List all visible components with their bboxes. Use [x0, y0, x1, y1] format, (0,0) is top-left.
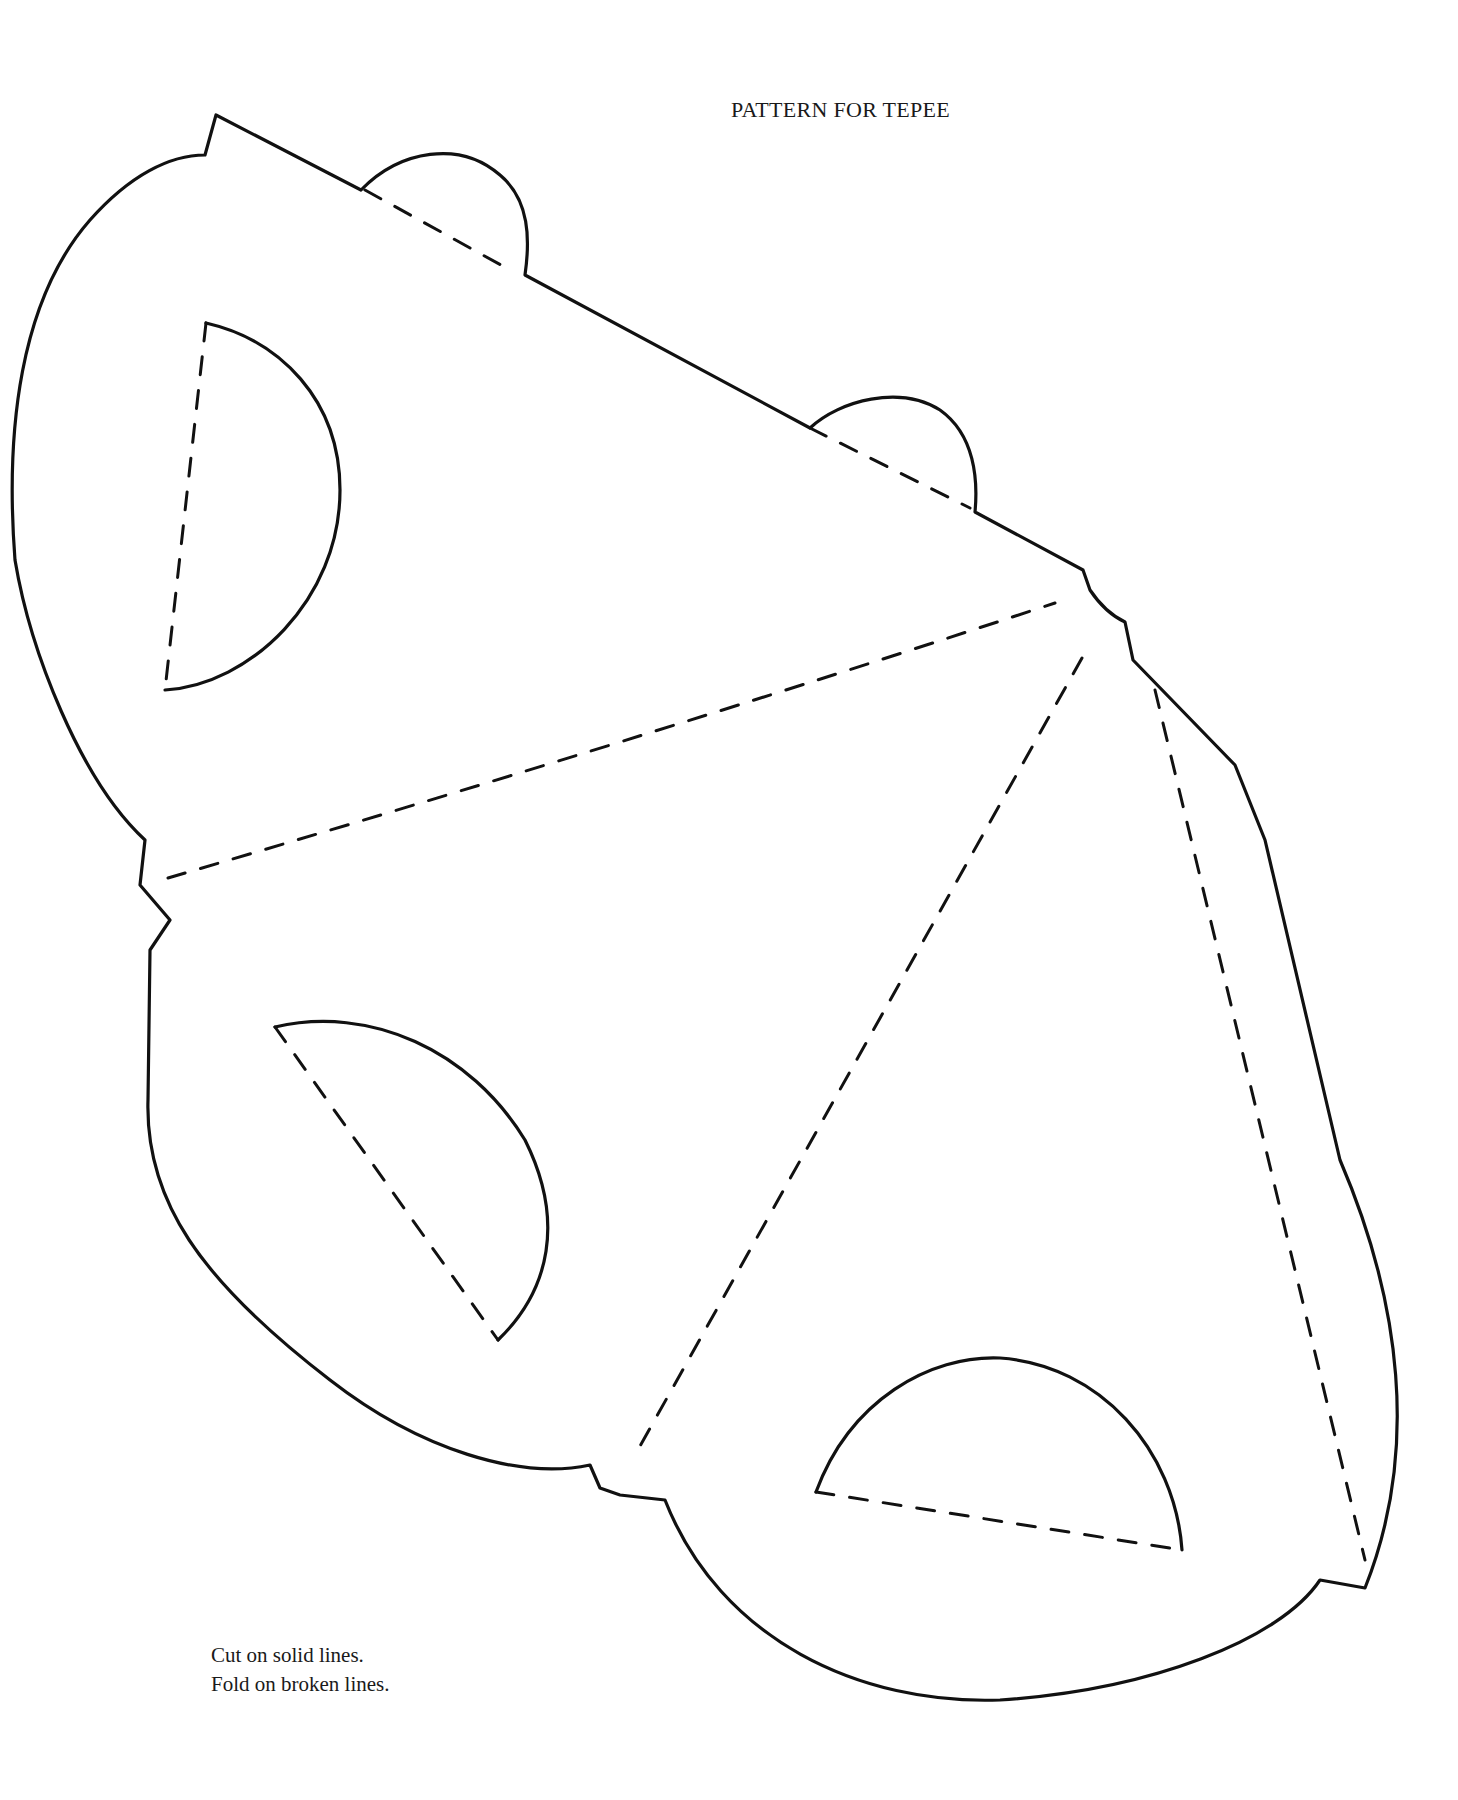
tepee-pattern-diagram	[0, 0, 1458, 1800]
fold-tab-top	[365, 190, 510, 270]
fold-main-diagonal	[635, 658, 1082, 1455]
fold-cutout-bottom	[816, 1492, 1182, 1550]
fold-tab-right	[810, 428, 970, 508]
cutout-top-left	[165, 323, 340, 690]
instruction-fold: Fold on broken lines.	[211, 1670, 390, 1699]
fold-cutout-top-left	[165, 323, 206, 690]
outer-cut-line	[12, 115, 1397, 1700]
fold-right-edge	[1155, 690, 1365, 1560]
fold-cutout-middle	[275, 1027, 498, 1340]
instructions: Cut on solid lines. Fold on broken lines…	[211, 1641, 390, 1699]
fold-main-horizontal	[168, 603, 1055, 878]
cutout-middle-left	[275, 1021, 548, 1340]
instruction-cut: Cut on solid lines.	[211, 1641, 390, 1670]
